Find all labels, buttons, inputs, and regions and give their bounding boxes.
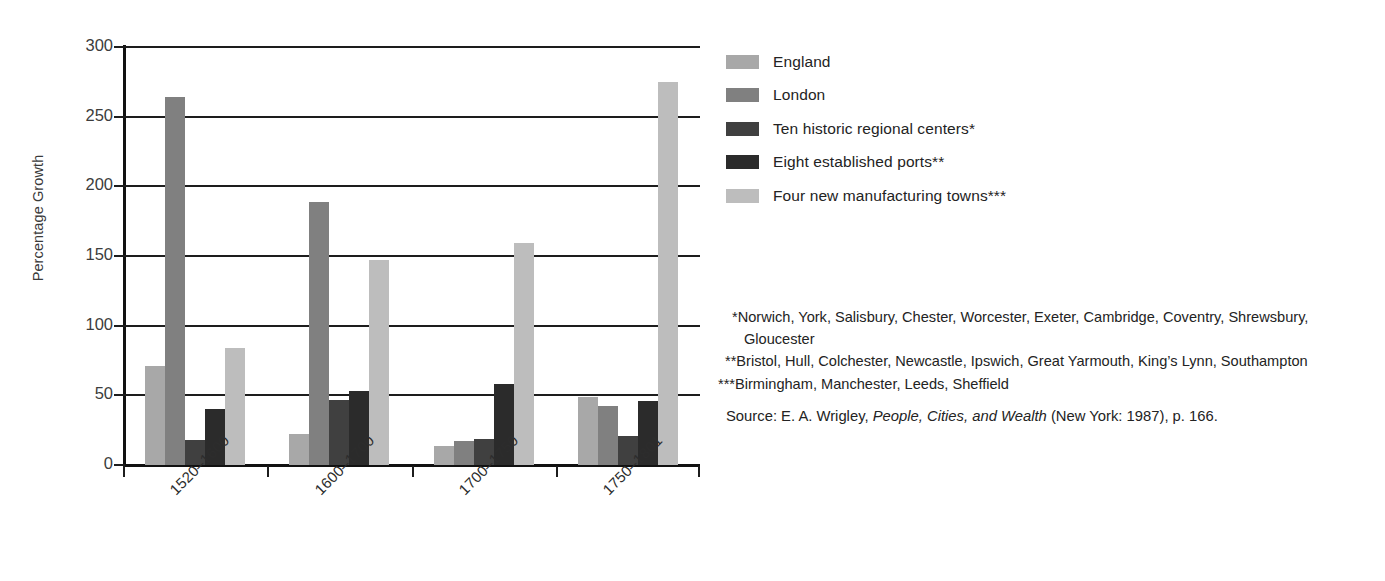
legend-swatch-icon <box>726 189 759 203</box>
chart-page: Percentage Growth 050100150200250300 152… <box>0 0 1385 581</box>
bar-group <box>123 47 267 465</box>
footnote-two: **Bristol, Hull, Colchester, Newcastle, … <box>726 351 1371 373</box>
y-tick-label: 50 <box>55 384 113 403</box>
y-tick-label: 250 <box>55 106 113 125</box>
y-tick-label: 0 <box>55 454 113 473</box>
x-axis-tick-labels: 1520–16001600–17001700–17501750–1801 <box>123 470 700 580</box>
legend-item[interactable]: Four new manufacturing towns*** <box>726 179 1366 213</box>
bar <box>434 446 454 466</box>
bar <box>454 441 474 465</box>
legend-swatch-icon <box>726 55 759 69</box>
legend-label: Eight established ports** <box>773 153 944 171</box>
bar <box>578 397 598 465</box>
legend-item[interactable]: Ten historic regional centers* <box>726 112 1366 146</box>
bar-group <box>412 47 556 465</box>
bar <box>289 434 309 465</box>
legend-label: Four new manufacturing towns*** <box>773 187 1006 205</box>
bar-group <box>267 47 411 465</box>
source-line: Source: E. A. Wrigley, People, Cities, a… <box>726 406 1371 428</box>
legend-label: London <box>773 86 825 104</box>
legend-item[interactable]: England <box>726 45 1366 79</box>
footnote-three: ***Birmingham, Manchester, Leeds, Sheffi… <box>726 374 1371 396</box>
y-axis-title: Percentage Growth <box>30 118 46 318</box>
y-tick-label: 100 <box>55 315 113 334</box>
y-tick-label: 200 <box>55 175 113 194</box>
bar <box>309 202 329 465</box>
source-prefix: Source: E. A. Wrigley, <box>726 408 873 424</box>
bar <box>514 243 534 465</box>
legend-label: Ten historic regional centers* <box>773 120 975 138</box>
bar <box>165 97 185 465</box>
bar <box>369 260 389 465</box>
legend-swatch-icon <box>726 122 759 136</box>
y-tick-label: 300 <box>55 36 113 55</box>
y-tick-label: 150 <box>55 245 113 264</box>
legend-swatch-icon <box>726 155 759 169</box>
bar <box>598 406 618 465</box>
source-suffix: (New York: 1987), p. 166. <box>1047 408 1218 424</box>
legend: EnglandLondonTen historic regional cente… <box>726 45 1366 213</box>
plot-area <box>123 47 700 465</box>
source-book-title: People, Cities, and Wealth <box>873 408 1047 424</box>
footnotes: *Norwich, York, Salisbury, Chester, Worc… <box>726 307 1371 429</box>
bar-chart: Percentage Growth 050100150200250300 152… <box>0 0 720 581</box>
legend-item[interactable]: Eight established ports** <box>726 146 1366 180</box>
bar <box>145 366 165 465</box>
legend-label: England <box>773 53 831 71</box>
y-axis-tick-labels: 050100150200250300 <box>55 47 113 465</box>
legend-item[interactable]: London <box>726 79 1366 113</box>
footnote-one: *Norwich, York, Salisbury, Chester, Worc… <box>726 307 1371 350</box>
legend-swatch-icon <box>726 88 759 102</box>
bar <box>658 82 678 465</box>
bar-group <box>556 47 700 465</box>
